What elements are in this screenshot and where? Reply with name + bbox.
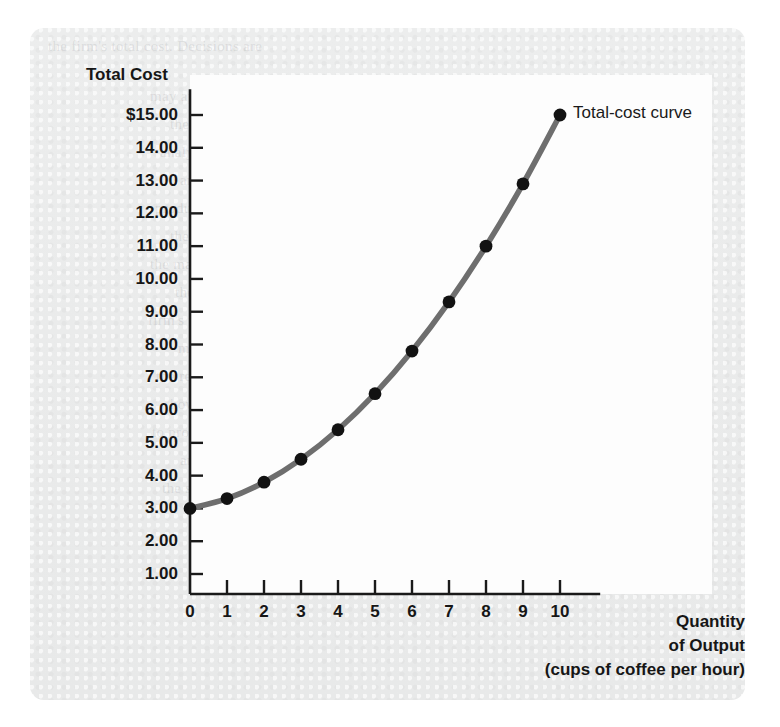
x-axis-tick-label: 3 bbox=[296, 602, 305, 622]
x-axis-tick-label: 5 bbox=[370, 602, 379, 622]
x-axis-title-line-3: (cups of coffee per hour) bbox=[545, 660, 745, 680]
x-axis-tick-label: 7 bbox=[444, 602, 453, 622]
x-axis-title-line-2: of Output bbox=[669, 636, 745, 656]
x-axis-tick-label: 1 bbox=[222, 602, 231, 622]
x-axis-tick-label: 10 bbox=[551, 602, 570, 622]
x-axis-title-line-1: Quantity bbox=[676, 612, 745, 632]
x-axis-tick-label: 0 bbox=[185, 602, 194, 622]
x-axis-tick-label: 9 bbox=[518, 602, 527, 622]
total-cost-curve-annotation: Total-cost curve bbox=[573, 103, 692, 123]
x-axis-tick-label: 4 bbox=[333, 602, 342, 622]
x-axis-tick-label: 6 bbox=[407, 602, 416, 622]
x-axis-tick-label: 8 bbox=[481, 602, 490, 622]
x-axis-tick-label: 2 bbox=[259, 602, 268, 622]
